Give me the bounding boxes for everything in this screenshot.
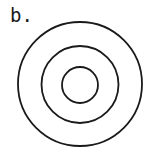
- outer-circle: [18, 22, 142, 146]
- middle-circle: [42, 46, 119, 123]
- inner-circle: [62, 67, 98, 103]
- concentric-circles-diagram: [0, 0, 151, 152]
